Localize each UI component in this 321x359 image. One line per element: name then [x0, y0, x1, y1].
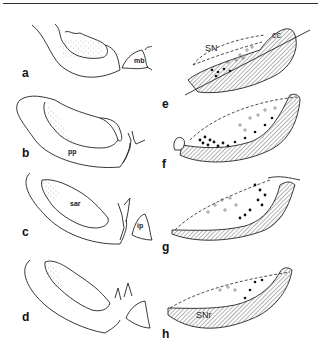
structure-label-mb: mb — [134, 57, 145, 64]
panel-g-drawing — [172, 177, 300, 240]
panel-label-c: c — [22, 225, 29, 239]
panel-b-drawing — [17, 96, 145, 167]
structure-label-sar: sar — [70, 200, 81, 207]
figure-drawings — [0, 0, 321, 359]
panel-f-drawing — [174, 94, 300, 162]
panel-h-drawing — [168, 268, 292, 328]
structure-label-cc: cc — [272, 30, 281, 40]
panel-label-f: f — [162, 157, 166, 171]
structure-label-ip: ip — [137, 222, 143, 229]
panel-label-g: g — [162, 240, 169, 254]
stipple-a — [62, 40, 102, 58]
panel-label-d: d — [22, 310, 29, 324]
panel-e-drawing — [185, 29, 310, 95]
structure-label-pp: pp — [68, 148, 77, 155]
panel-label-a: a — [22, 66, 29, 80]
panel-label-b: b — [22, 146, 29, 160]
panel-label-h: h — [162, 327, 169, 341]
panel-label-e: e — [162, 97, 169, 111]
structure-label-snr: SNr — [196, 310, 212, 320]
panel-d-drawing — [25, 260, 150, 333]
structure-label-sn: SN — [205, 43, 218, 53]
